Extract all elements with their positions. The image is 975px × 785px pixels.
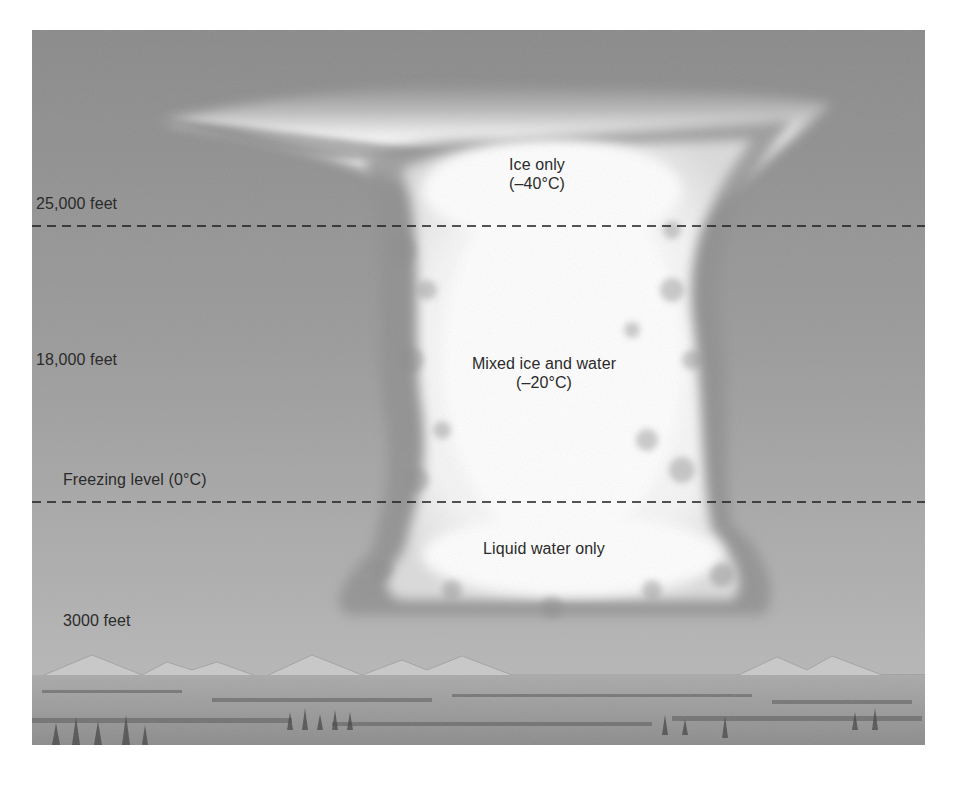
mixed-zone-title: Mixed ice and water <box>472 354 616 373</box>
altitude-label-3000: 3000 feet <box>63 611 131 630</box>
liquid-zone-label: Liquid water only <box>483 539 605 558</box>
ice-zone-temperature: (–40°C) <box>509 174 565 193</box>
altitude-label-18000: 18,000 feet <box>36 350 117 369</box>
ice-zone-title: Ice only <box>509 155 565 174</box>
altitude-label-25000: 25,000 feet <box>36 194 117 213</box>
liquid-zone-title: Liquid water only <box>483 539 605 558</box>
mixed-zone-label: Mixed ice and water (–20°C) <box>472 354 616 392</box>
ice-zone-label: Ice only (–40°C) <box>509 155 565 193</box>
mixed-zone-temperature: (–20°C) <box>472 373 616 392</box>
freezing-level-label: Freezing level (0°C) <box>63 470 207 489</box>
